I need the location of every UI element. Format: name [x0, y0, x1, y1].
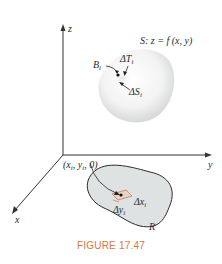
x-axis-label: x	[15, 215, 19, 225]
y-axis-label: y	[208, 160, 212, 170]
x-axis	[15, 155, 63, 210]
y-axis-arrowhead	[205, 153, 212, 158]
z-axis-label: z	[68, 24, 72, 34]
point-label: (xi, yi, 0)	[63, 160, 97, 172]
b-label: Bi	[93, 60, 101, 72]
figure-17-47: z y x S: z = f (x, y) Bi ΔTi ΔSi (xi, yi…	[0, 0, 222, 264]
delta-x-label: Δxi	[134, 197, 146, 209]
delta-s-label: ΔSi	[129, 87, 142, 99]
region-r-label: R	[149, 222, 155, 232]
delta-t-label: ΔTi	[120, 54, 133, 66]
point-b	[116, 73, 119, 76]
figure-caption: FIGURE 17.47	[0, 240, 222, 251]
z-axis-arrowhead	[61, 24, 66, 31]
delta-y-label: Δyi	[113, 205, 125, 217]
surface-equation-label: S: z = f (x, y)	[140, 36, 192, 46]
